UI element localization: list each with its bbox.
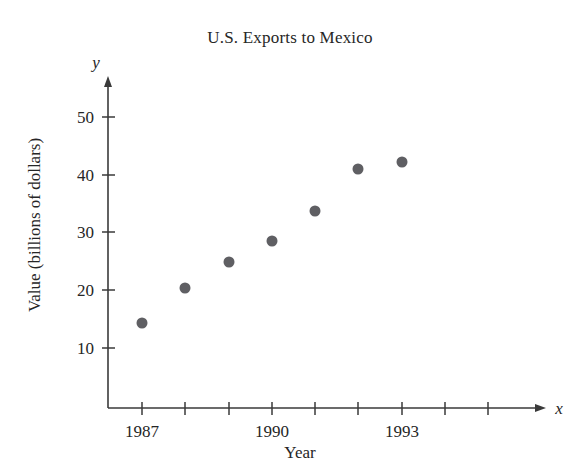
data-point <box>310 206 321 217</box>
x-axis-symbol: x <box>554 399 563 418</box>
chart-figure: U.S. Exports to Mexico y x 50 40 30 20 1… <box>0 0 580 464</box>
data-point <box>353 164 364 175</box>
y-tick-label: 50 <box>77 108 94 127</box>
y-axis-arrowhead <box>104 76 112 87</box>
scatter-plot: y x 50 40 30 20 10 <box>0 0 580 464</box>
x-axis-group: x <box>108 399 563 418</box>
data-point <box>397 157 408 168</box>
y-tick-label: 10 <box>77 339 94 358</box>
data-point <box>224 257 235 268</box>
y-axis-label: Value (billions of dollars) <box>25 138 44 312</box>
x-tick-label: 1987 <box>125 422 160 441</box>
y-tick-label: 20 <box>77 281 94 300</box>
x-axis-label: Year <box>284 443 316 462</box>
y-tick-label: 40 <box>77 166 94 185</box>
x-axis-arrowhead <box>535 404 546 412</box>
y-tick-label: 30 <box>77 223 94 242</box>
data-point <box>267 236 278 247</box>
y-tick-group: 50 40 30 20 10 <box>77 108 115 358</box>
data-point <box>180 283 191 294</box>
x-tick-label: 1990 <box>255 422 289 441</box>
data-point <box>137 318 148 329</box>
data-points-group <box>137 157 408 329</box>
x-tick-label: 1993 <box>385 422 419 441</box>
y-axis-symbol: y <box>90 53 100 72</box>
